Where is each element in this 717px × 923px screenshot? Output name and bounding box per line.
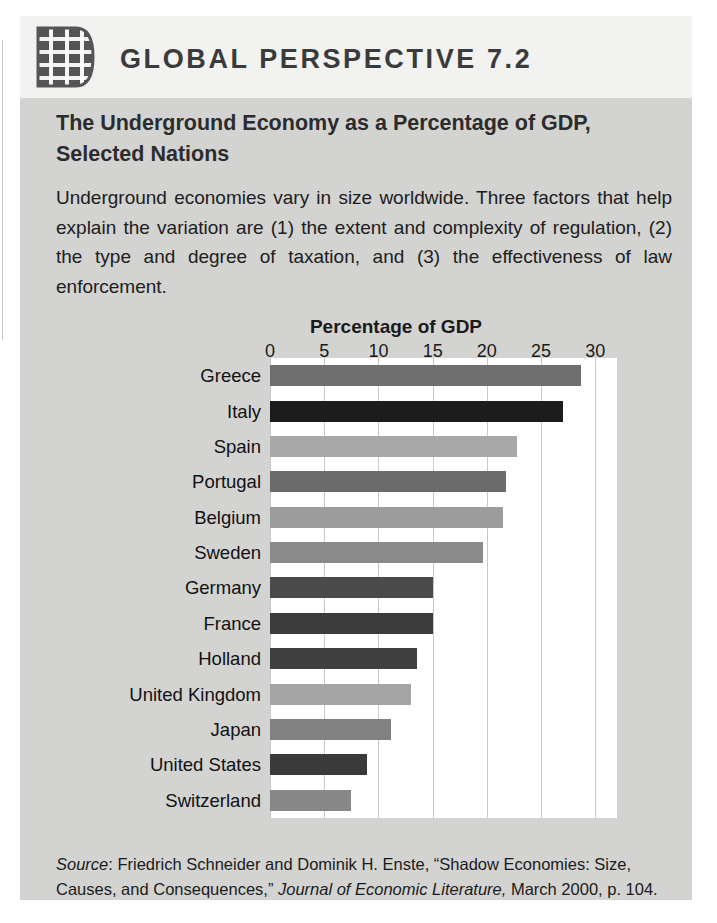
- category-label-germany: Germany: [185, 577, 261, 598]
- category-label-united-states: United States: [150, 754, 261, 775]
- category-label-italy: Italy: [227, 401, 261, 422]
- bar-row: United Kingdom: [270, 676, 617, 711]
- bar-row: Italy: [270, 393, 617, 428]
- bar-portugal: [270, 471, 506, 492]
- category-label-spain: Spain: [214, 436, 261, 457]
- bar-holland: [270, 648, 417, 669]
- bar-italy: [270, 401, 563, 422]
- bar-belgium: [270, 507, 503, 528]
- bar-row: Japan: [270, 712, 617, 747]
- bar-row: Portugal: [270, 464, 617, 499]
- category-label-portugal: Portugal: [192, 471, 261, 492]
- global-perspective-figure: GLOBAL PERSPECTIVE 7.2 The Underground E…: [0, 0, 717, 923]
- category-label-france: France: [203, 613, 261, 634]
- bar-sweden: [270, 542, 483, 563]
- source-journal: Journal of Economic Literature,: [278, 880, 506, 898]
- bar-row: Belgium: [270, 500, 617, 535]
- header-band: GLOBAL PERSPECTIVE 7.2: [20, 16, 692, 98]
- content-box: GLOBAL PERSPECTIVE 7.2 The Underground E…: [20, 16, 692, 900]
- bar-row: Greece: [270, 358, 617, 393]
- category-label-united-kingdom: United Kingdom: [129, 684, 261, 705]
- bar-row: Germany: [270, 570, 617, 605]
- bar-row: Sweden: [270, 535, 617, 570]
- category-label-switzerland: Switzerland: [165, 790, 261, 811]
- page-gutter-line: [2, 40, 3, 340]
- figure-subtitle: The Underground Economy as a Percentage …: [56, 108, 666, 170]
- bar-japan: [270, 719, 391, 740]
- category-label-belgium: Belgium: [194, 507, 261, 528]
- bar-greece: [270, 365, 581, 386]
- bar-chart-plot-area: GreeceItalySpainPortugalBelgiumSwedenGer…: [270, 358, 617, 818]
- category-label-greece: Greece: [200, 365, 261, 386]
- intro-paragraph: Underground economies vary in size world…: [56, 183, 672, 301]
- chart-title: Percentage of GDP: [20, 316, 692, 338]
- bar-row: Switzerland: [270, 783, 617, 818]
- category-label-japan: Japan: [211, 719, 261, 740]
- source-text-2: March 2000, p. 104.: [506, 880, 657, 898]
- category-label-sweden: Sweden: [194, 542, 261, 563]
- source-label: Source: [56, 855, 108, 873]
- globe-grid-icon: [36, 24, 98, 90]
- source-note: Source: Friedrich Schneider and Dominik …: [56, 852, 680, 902]
- bar-row: Holland: [270, 641, 617, 676]
- bar-united-states: [270, 754, 367, 775]
- bar-germany: [270, 577, 433, 598]
- page-title: GLOBAL PERSPECTIVE 7.2: [120, 44, 532, 75]
- bar-row: France: [270, 606, 617, 641]
- bar-row: Spain: [270, 429, 617, 464]
- bar-switzerland: [270, 790, 351, 811]
- category-label-holland: Holland: [198, 648, 261, 669]
- bar-france: [270, 613, 433, 634]
- bar-row: United States: [270, 747, 617, 782]
- bar-spain: [270, 436, 517, 457]
- bar-united-kingdom: [270, 684, 411, 705]
